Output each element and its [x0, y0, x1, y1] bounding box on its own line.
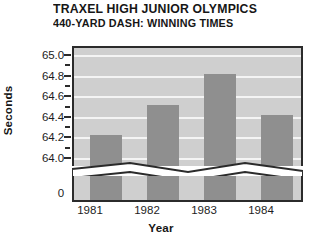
title-block: TRAXEL HIGH JUNIOR OLYMPICS 440-YARD DAS…: [53, 2, 313, 30]
bar-1982: [147, 105, 179, 167]
y-tick-mark: [64, 136, 71, 138]
y-tick-label: 64.2: [42, 131, 64, 143]
y-tick-mark: [64, 157, 71, 159]
y-tick-mark: [64, 95, 71, 97]
y-tick-label: 65.0: [42, 49, 64, 61]
x-tick-label-1982: 1982: [117, 204, 177, 216]
gridline: [74, 55, 301, 57]
y-tick-label: 64.0: [42, 152, 64, 164]
bar-base-1983: [204, 176, 236, 200]
y-axis: 65.0 64.8 64.6 64.4 64.2 64.0 0 Seconds: [0, 0, 64, 238]
y-tick-mark: [64, 75, 71, 77]
gridline: [74, 96, 301, 98]
y-tick-label: 64.8: [42, 70, 64, 82]
bar-1983: [204, 74, 236, 166]
bar-base-1981: [90, 176, 122, 200]
y-tick-mark-minor: [65, 106, 70, 108]
y-tick-label: 64.4: [42, 111, 64, 123]
bar-base-1984: [261, 176, 293, 200]
y-tick-mark-minor: [65, 85, 70, 87]
bar-base-1982: [147, 176, 179, 200]
chart-subtitle: 440-YARD DASH: WINNING TIMES: [53, 17, 295, 30]
bar-1984: [261, 115, 293, 166]
y-axis-title: Seconds: [1, 86, 14, 136]
x-tick-label-1984: 1984: [231, 204, 291, 216]
plot-area: [72, 46, 303, 166]
y-tick-mark: [64, 54, 71, 56]
chart-figure: TRAXEL HIGH JUNIOR OLYMPICS 440-YARD DAS…: [0, 0, 322, 238]
chart-title: TRAXEL HIGH JUNIOR OLYMPICS: [53, 2, 295, 16]
y-tick-mark: [64, 116, 71, 118]
x-axis-title: Year: [0, 221, 322, 234]
gridline: [74, 76, 301, 78]
x-tick-label-1983: 1983: [174, 204, 234, 216]
y-tick-mark-minor: [65, 126, 70, 128]
y-tick-mark-minor: [65, 147, 70, 149]
y-tick-mark-minor: [65, 64, 70, 66]
axis-base-strip: [72, 176, 303, 202]
y-zero-label: 0: [58, 187, 64, 199]
y-tick-label: 64.6: [42, 90, 64, 102]
x-tick-label-1981: 1981: [60, 204, 120, 216]
